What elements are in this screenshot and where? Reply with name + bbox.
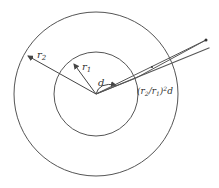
far-point — [205, 39, 208, 42]
mid-point — [151, 66, 153, 68]
inner-radius-label: r1 — [82, 61, 91, 74]
inner-distance-label: d — [98, 77, 104, 88]
outer-radius-label: r2 — [37, 49, 47, 62]
concentric-circles-diagram: r2 r1 d (r2/r1)2d — [0, 0, 219, 188]
outer-distance-label: (r2/r1)2d — [137, 85, 173, 97]
